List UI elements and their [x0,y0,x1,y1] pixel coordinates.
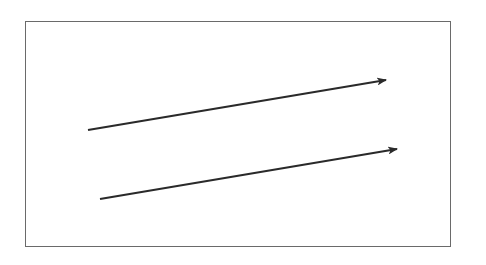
lower-arrow-icon [100,149,397,199]
upper-arrow-icon [88,80,386,130]
diagram-canvas [0,0,486,265]
